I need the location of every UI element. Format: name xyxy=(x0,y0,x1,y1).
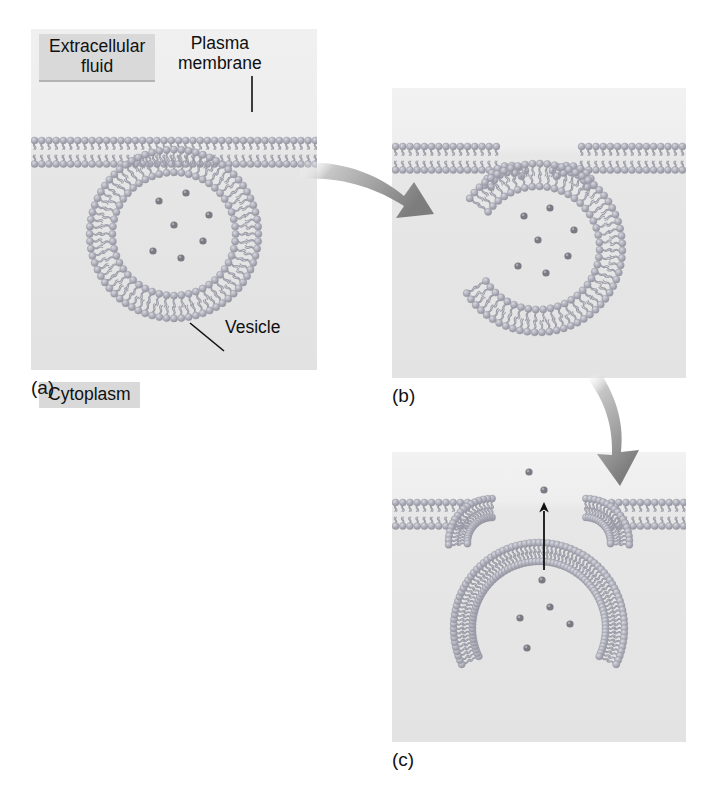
extracellular-fluid-line1: Extracellular xyxy=(49,36,145,56)
exocytosis-figure: Extracellular fluid Cytoplasm Plasma mem… xyxy=(0,0,706,799)
panel-c-caption: (c) xyxy=(392,749,414,771)
panel-c-background xyxy=(392,452,686,742)
plasma-membrane-label: Plasma membrane xyxy=(178,34,262,73)
extracellular-fluid-label: Extracellular fluid xyxy=(39,34,155,80)
panel-b-caption: (b) xyxy=(392,385,415,407)
panel-b-graphic xyxy=(392,88,686,378)
plasma-membrane-line1: Plasma xyxy=(191,33,249,53)
panel-a-caption: (a) xyxy=(31,377,54,399)
cytoplasm-text: Cytoplasm xyxy=(48,384,131,404)
panel-b xyxy=(392,88,686,378)
extracellular-fluid-line2: fluid xyxy=(81,56,113,76)
panel-c-graphic xyxy=(392,452,686,742)
vesicle-label: Vesicle xyxy=(225,318,280,338)
panel-c xyxy=(392,452,686,742)
vesicle-text: Vesicle xyxy=(225,317,280,337)
plasma-membrane-line2: membrane xyxy=(178,53,262,73)
